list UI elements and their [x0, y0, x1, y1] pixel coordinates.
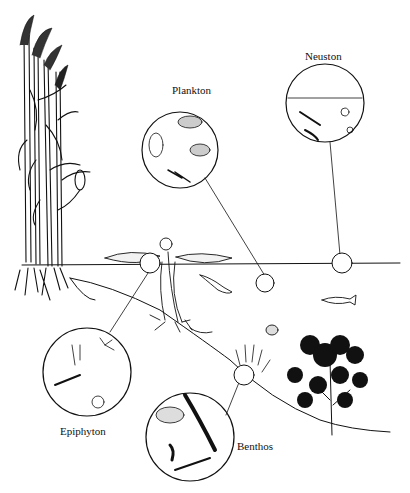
benthos-leader-line: [226, 380, 240, 415]
neuston-label: Neuston: [305, 50, 342, 62]
benthos-label: Benthos: [237, 440, 273, 452]
neuston-inset: [286, 64, 364, 273]
plankton-label: Plankton: [172, 84, 211, 96]
fish: [322, 295, 356, 305]
diagram-canvas: [0, 0, 410, 493]
reeds-illustration: [15, 15, 90, 300]
epiphyton-inset: [43, 253, 160, 416]
newt: [200, 275, 232, 293]
water-beetle: [266, 325, 278, 335]
neuston-leader-line: [330, 142, 340, 255]
pond-ecology-diagram: Plankton Neuston Epiphyton Benthos: [0, 0, 410, 493]
epiphyton-label: Epiphyton: [60, 425, 106, 437]
epiphyton-leader-line: [110, 270, 150, 332]
benthos-inset: [146, 365, 254, 481]
